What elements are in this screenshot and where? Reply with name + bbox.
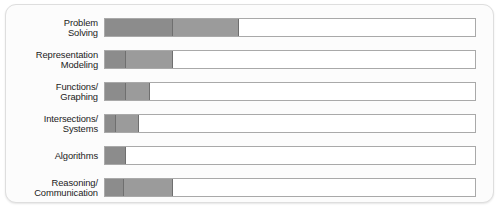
bar-segment xyxy=(105,147,126,164)
bar-segment xyxy=(173,19,239,36)
bar-segment xyxy=(105,83,126,100)
bar-segment xyxy=(105,51,126,68)
category-label: Algorithms xyxy=(6,151,98,161)
bar-segment xyxy=(105,115,116,132)
bar-track xyxy=(104,114,476,133)
bar-segment xyxy=(105,179,124,196)
chart-row: Representation Modeling xyxy=(6,50,493,70)
bar-segment xyxy=(126,51,174,68)
bar-segment xyxy=(105,19,173,36)
bar-segment xyxy=(124,179,174,196)
chart-row: Functions/ Graphing xyxy=(6,82,493,102)
chart-panel: Problem SolvingRepresentation ModelingFu… xyxy=(5,4,494,203)
chart-row: Intersections/ Systems xyxy=(6,114,493,134)
category-label: Functions/ Graphing xyxy=(6,82,98,102)
category-label: Representation Modeling xyxy=(6,50,98,70)
bar-segment xyxy=(116,115,139,132)
chart-rows-container: Problem SolvingRepresentation ModelingFu… xyxy=(6,5,493,202)
bar-track xyxy=(104,178,476,197)
bar-track xyxy=(104,82,476,101)
chart-row: Algorithms xyxy=(6,146,493,166)
category-label: Problem Solving xyxy=(6,18,98,38)
category-label: Intersections/ Systems xyxy=(6,114,98,134)
bar-track xyxy=(104,18,476,37)
chart-row: Reasoning/ Communication xyxy=(6,178,493,198)
chart-row: Problem Solving xyxy=(6,18,493,38)
bar-track xyxy=(104,146,476,165)
category-label: Reasoning/ Communication xyxy=(6,178,98,198)
bar-track xyxy=(104,50,476,69)
bar-segment xyxy=(126,83,150,100)
